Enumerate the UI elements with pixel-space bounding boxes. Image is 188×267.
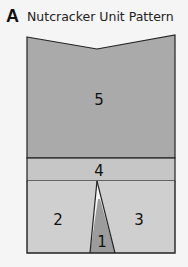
piece-label-2: 2 <box>53 211 63 229</box>
piece-label-3: 3 <box>134 211 144 229</box>
pattern-diagram: 5 4 2 3 1 <box>0 0 188 267</box>
piece-label-4: 4 <box>94 162 104 180</box>
piece-label-5: 5 <box>94 91 104 109</box>
piece-label-1: 1 <box>97 233 107 251</box>
